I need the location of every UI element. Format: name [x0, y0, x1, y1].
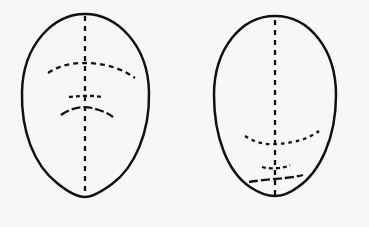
left-head-brow-guide — [48, 63, 135, 78]
right-head-nose-guide — [262, 165, 290, 168]
right-head-figure — [214, 16, 336, 196]
left-head-figure — [22, 14, 149, 197]
right-head-brow-guide — [245, 131, 319, 144]
face-diagram-svg — [0, 0, 369, 227]
left-head-mouth-guide — [61, 107, 113, 117]
left-head-nose-guide — [69, 96, 101, 97]
diagram-canvas — [0, 0, 369, 227]
